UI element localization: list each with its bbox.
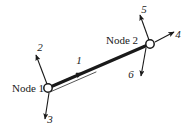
dof-label-4: 4 [175,28,181,40]
beam-member [48,44,150,92]
dof-label-6: 6 [128,68,134,80]
beam-member-underline [50,72,96,92]
dof-label-group: 1 2 3 4 5 6 [37,3,181,125]
dof-label-1: 1 [76,54,82,66]
dof-arrow-6 [141,48,146,76]
dof-arrow-4 [155,32,174,42]
node-2-joint [146,40,154,48]
dof-label-5: 5 [141,3,147,15]
node-label-group: Node 1 Node 2 [12,34,138,94]
dof-label-2: 2 [37,41,43,53]
dof-arrow-5 [140,15,149,40]
node-1-label: Node 1 [12,82,44,94]
dof-label-3: 3 [46,113,53,125]
dof-arrow-1 [54,73,82,85]
diagram-canvas: Node 1 Node 2 1 2 3 4 5 6 [0,0,194,132]
beam-element-diagram: Node 1 Node 2 1 2 3 4 5 6 [0,0,194,132]
node-1-joint [44,84,52,92]
node-2-label: Node 2 [106,34,138,46]
dof-arrow-2 [36,55,47,84]
dof-arrow-group [36,15,174,119]
